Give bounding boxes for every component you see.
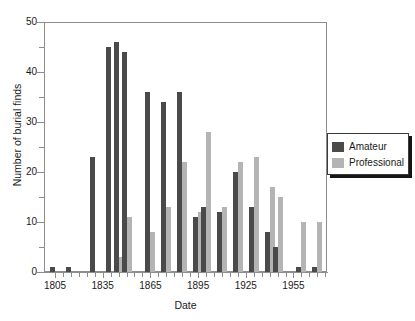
bar-professional	[222, 207, 227, 272]
x-tick-major	[103, 273, 104, 278]
bar-professional	[150, 232, 155, 272]
x-tick-minor	[325, 273, 326, 277]
x-tick-minor	[174, 273, 175, 277]
y-tick-label: 10	[26, 217, 37, 227]
x-tick-minor	[254, 273, 255, 277]
x-tick-major	[55, 273, 56, 278]
bar-professional	[127, 217, 132, 272]
x-tick-label: 1865	[130, 280, 170, 291]
legend-item-professional: Professional	[332, 156, 404, 169]
bar-amateur	[106, 47, 111, 272]
x-tick-minor	[278, 273, 279, 277]
x-tick-label: 1955	[273, 280, 313, 291]
y-tick-label: 20	[26, 167, 37, 177]
x-tick-minor	[127, 273, 128, 277]
legend-swatch-amateur	[332, 142, 344, 152]
y-tick-label: 30	[26, 117, 37, 127]
bar-professional	[166, 207, 171, 272]
x-tick-minor	[222, 273, 223, 277]
legend-label-amateur: Amateur	[349, 142, 387, 152]
y-tick-minor	[39, 147, 44, 148]
y-tick-label: 0	[31, 267, 37, 277]
x-tick-minor	[158, 273, 159, 277]
bar-professional	[278, 197, 283, 272]
x-axis-title: Date	[44, 299, 327, 311]
x-tick-minor	[111, 273, 112, 277]
x-tick-minor	[182, 273, 183, 277]
y-tick-minor	[39, 197, 44, 198]
y-tick-major	[37, 222, 44, 223]
x-tick-minor	[309, 273, 310, 277]
x-tick-minor	[230, 273, 231, 277]
y-tick-major	[37, 22, 44, 23]
y-tick-label: 40	[26, 67, 37, 77]
x-tick-minor	[317, 273, 318, 277]
x-tick-minor	[95, 273, 96, 277]
legend-item-amateur: Amateur	[332, 140, 387, 153]
x-tick-label: 1895	[178, 280, 218, 291]
y-tick-minor	[39, 97, 44, 98]
y-tick-major	[37, 72, 44, 73]
y-axis-line	[44, 22, 45, 273]
x-tick-minor	[71, 273, 72, 277]
x-tick-minor	[79, 273, 80, 277]
y-tick-major	[37, 172, 44, 173]
bar-series-layer	[44, 22, 327, 272]
x-tick-label: 1925	[226, 280, 266, 291]
bar-chart-figure: 01020304050 Number of burial finds 18051…	[0, 0, 415, 321]
y-tick-minor	[39, 247, 44, 248]
x-tick-minor	[214, 273, 215, 277]
y-axis-title: Number of burial finds	[11, 55, 23, 215]
x-tick-minor	[301, 273, 302, 277]
chart-legend: Amateur Professional	[327, 133, 409, 175]
x-tick-minor	[262, 273, 263, 277]
x-tick-minor	[166, 273, 167, 277]
x-tick-major	[198, 273, 199, 278]
bar-amateur	[114, 42, 119, 272]
x-tick-minor	[63, 273, 64, 277]
bar-amateur	[90, 157, 95, 272]
x-tick-minor	[206, 273, 207, 277]
x-tick-minor	[87, 273, 88, 277]
x-tick-minor	[190, 273, 191, 277]
x-tick-minor	[142, 273, 143, 277]
y-tick-label: 50	[26, 17, 37, 27]
legend-swatch-professional	[332, 158, 344, 168]
bar-professional	[206, 132, 211, 272]
x-tick-major	[246, 273, 247, 278]
x-tick-minor	[270, 273, 271, 277]
x-tick-minor	[286, 273, 287, 277]
bar-professional	[238, 162, 243, 272]
bar-professional	[317, 222, 322, 272]
y-tick-major	[37, 272, 44, 273]
bar-professional	[301, 222, 306, 272]
y-tick-major	[37, 122, 44, 123]
x-tick-minor	[134, 273, 135, 277]
bar-professional	[254, 157, 259, 272]
y-tick-minor	[39, 47, 44, 48]
bar-professional	[182, 162, 187, 272]
x-tick-minor	[119, 273, 120, 277]
x-tick-label: 1835	[83, 280, 123, 291]
x-tick-major	[150, 273, 151, 278]
legend-label-professional: Professional	[349, 158, 404, 168]
x-tick-minor	[238, 273, 239, 277]
x-tick-label: 1805	[35, 280, 75, 291]
x-tick-major	[293, 273, 294, 278]
